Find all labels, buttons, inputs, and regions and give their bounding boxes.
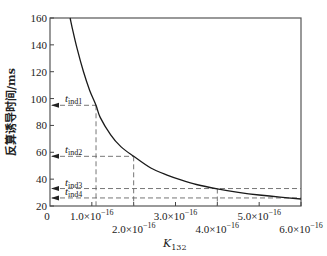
- y-tick-label: 80: [36, 119, 48, 131]
- y-tick-label: 40: [36, 173, 48, 185]
- x-axis-title: K132: [162, 237, 187, 252]
- x-tick-label: 6.0×10−16: [279, 221, 322, 235]
- y-tick-label: 60: [36, 146, 48, 158]
- arrow-left-icon: [51, 186, 59, 191]
- x-tick-label: 0: [44, 210, 50, 222]
- y-axis-title: 反算诱导时间/ms: [4, 68, 18, 156]
- x-tick-label: 1.0×10−16: [70, 208, 113, 222]
- annotation-label: tind1: [65, 92, 82, 106]
- arrow-left-icon: [51, 154, 59, 159]
- arrow-left-icon: [51, 103, 59, 108]
- x-tick-label: 4.0×10−16: [196, 221, 239, 235]
- chart: 20406080100120140160 01.0×10−162.0×10−16…: [0, 0, 327, 256]
- guide-lines: [52, 105, 301, 206]
- arrow-left-icon: [51, 195, 59, 200]
- data-curve: [70, 18, 301, 199]
- annotation-label: tind2: [65, 143, 82, 157]
- x-tick-label: 5.0×10−16: [237, 208, 280, 222]
- y-tick-label: 140: [31, 39, 48, 51]
- y-tick-label: 160: [31, 12, 48, 24]
- x-tick-label: 3.0×10−16: [154, 208, 197, 222]
- x-axis-ticks: 01.0×10−162.0×10−163.0×10−164.0×10−165.0…: [44, 202, 322, 235]
- y-tick-label: 100: [31, 93, 48, 105]
- y-tick-label: 120: [31, 66, 48, 78]
- annotations: tind1tind2tind3tind4: [51, 92, 82, 200]
- x-tick-label: 2.0×10−16: [112, 221, 155, 235]
